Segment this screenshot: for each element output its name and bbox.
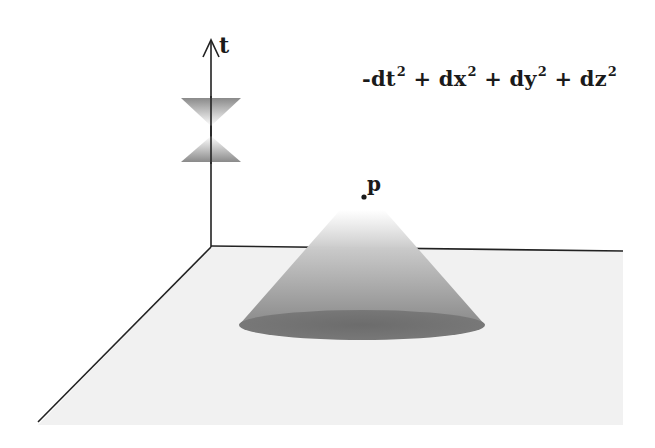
cone-base-ellipse	[239, 310, 485, 340]
metric-term: + dx	[413, 66, 466, 91]
point-p-label: p	[367, 172, 381, 196]
metric-term: + dz	[555, 66, 607, 91]
small-light-cone-icon	[181, 96, 241, 164]
metric-equation: -dt2 + dx2 + dy2 + dz2	[362, 64, 617, 91]
metric-term: -dt	[362, 66, 396, 91]
point-p	[361, 194, 366, 199]
metric-term: + dy	[484, 66, 537, 91]
t-axis-label: t	[219, 32, 229, 58]
